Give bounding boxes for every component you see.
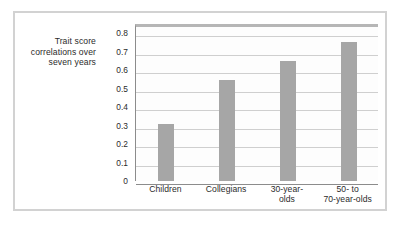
plot-area — [135, 24, 378, 181]
plot-inner — [136, 27, 378, 181]
y-axis-tick-label: 0.4 — [98, 103, 128, 112]
y-axis-tick-label: 0.6 — [98, 66, 128, 75]
y-axis-caption-line-2: correlations over — [20, 47, 96, 58]
bar — [280, 61, 296, 181]
y-axis-tick-labels: 0.80.70.60.50.40.30.20.10 — [98, 24, 128, 181]
y-axis-tick-label: 0.5 — [98, 84, 128, 93]
bar — [341, 42, 357, 181]
y-axis-tick-label: 0 — [98, 177, 128, 186]
y-axis-tick-label: 0.1 — [98, 158, 128, 167]
y-axis-caption-line-1: Trait score — [20, 36, 96, 47]
y-axis-caption-line-3: seven years — [20, 57, 96, 68]
y-axis-tick-label: 0.8 — [98, 29, 128, 38]
x-axis-category-label: 50- to70-year-olds — [311, 184, 384, 204]
x-axis-category-labels: ChildrenCollegians30-year-olds50- to70-y… — [135, 184, 378, 212]
chart-figure: Trait score correlations over seven year… — [0, 0, 401, 230]
x-axis-category-label-line: 50- to — [311, 184, 384, 194]
bar — [158, 124, 174, 181]
y-axis-tick-label: 0.3 — [98, 121, 128, 130]
y-axis-tick-label: 0.7 — [98, 47, 128, 56]
x-axis-category-label-line: 70-year-olds — [311, 194, 384, 204]
gridline — [136, 36, 378, 37]
y-axis-caption: Trait score correlations over seven year… — [20, 36, 96, 68]
y-axis-tick-label: 0.2 — [98, 140, 128, 149]
bar — [219, 80, 235, 181]
